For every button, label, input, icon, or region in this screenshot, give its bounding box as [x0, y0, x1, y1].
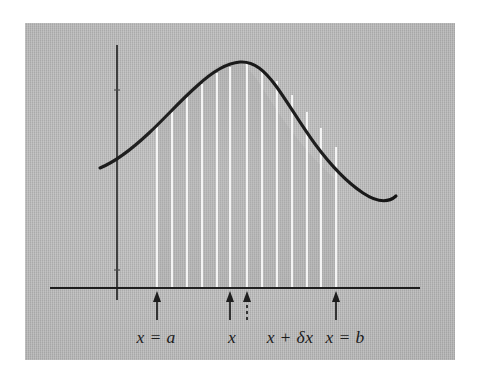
figure-panel: x = a x x + δx x = b	[25, 23, 455, 360]
arrow-x-equals-b	[332, 291, 340, 320]
label-x-equals-b: x = b	[324, 327, 364, 347]
arrow-x-equals-a	[153, 291, 161, 320]
arrow-x-plus-delta-x	[243, 291, 251, 320]
label-x-plus-delta-x: x + δx	[266, 327, 314, 347]
label-x-equals-a: x = a	[135, 327, 175, 347]
pointer-arrows-group	[153, 291, 340, 320]
figure-root: x = a x x + δx x = b	[0, 0, 479, 374]
label-x: x	[227, 327, 236, 347]
integral-strips-plot: x = a x x + δx x = b	[25, 23, 455, 360]
arrow-x	[226, 291, 234, 320]
